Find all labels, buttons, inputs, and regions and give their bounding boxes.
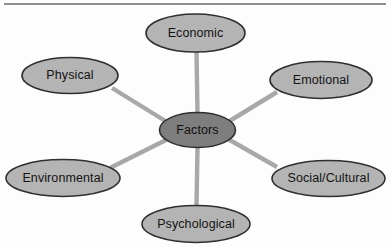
connector-physical xyxy=(112,88,167,122)
node-physical-label: Physical xyxy=(46,68,93,82)
center-node-group: Factors xyxy=(160,113,236,148)
connector-emotional xyxy=(228,92,277,122)
diagram-figure: EconomicPhysicalEmotionalEnvironmentalSo… xyxy=(0,0,391,247)
node-psychological-label: Psychological xyxy=(157,217,235,231)
node-emotional[interactable]: Emotional xyxy=(270,62,372,99)
diagram-canvas: EconomicPhysicalEmotionalEnvironmentalSo… xyxy=(0,0,391,247)
connector-economic xyxy=(197,52,198,113)
node-psychological[interactable]: Psychological xyxy=(142,206,250,243)
node-economic[interactable]: Economic xyxy=(146,14,245,52)
node-social-cultural[interactable]: Social/Cultural xyxy=(272,161,385,197)
node-environmental-label: Environmental xyxy=(22,171,103,185)
connector-environmental xyxy=(110,139,168,168)
node-physical[interactable]: Physical xyxy=(22,58,118,94)
connector-social xyxy=(228,139,277,167)
center-node-factors-label: Factors xyxy=(176,123,218,137)
node-environmental[interactable]: Environmental xyxy=(6,160,120,197)
node-economic-label: Economic xyxy=(168,26,224,40)
connector-psychological xyxy=(197,147,198,206)
center-node-factors[interactable]: Factors xyxy=(160,113,236,148)
node-social-cultural-label: Social/Cultural xyxy=(287,171,369,185)
node-emotional-label: Emotional xyxy=(293,73,350,87)
